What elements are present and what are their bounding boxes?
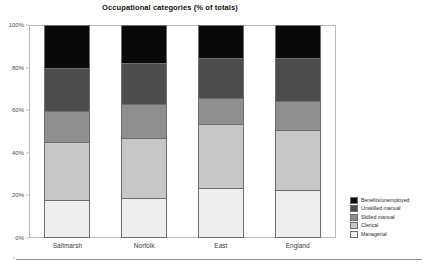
y-axis: 0%20%40%60%80%100% [0, 25, 29, 238]
bar-stack [275, 25, 321, 238]
bar-segment[interactable] [198, 188, 244, 238]
legend-item-label: Unskilled manual [361, 205, 401, 212]
bar-segment[interactable] [275, 130, 321, 190]
bar-stack [121, 25, 167, 238]
chart-legend: Benefits/unemployedUnskilled manualSkill… [350, 196, 436, 239]
bar-segment[interactable] [121, 25, 167, 63]
y-axis-tick-label: 80% [12, 65, 24, 71]
bar-group-saltmarsh[interactable] [44, 25, 90, 238]
legend-item-label: Managerial [361, 231, 387, 238]
bar-group-east[interactable] [198, 25, 244, 238]
legend-color-swatch [350, 197, 358, 204]
bar-segment[interactable] [198, 58, 244, 98]
bar-segment[interactable] [121, 104, 167, 138]
bar-segment[interactable] [198, 124, 244, 188]
bar-segment[interactable] [44, 142, 90, 200]
x-axis: SaltmarshNorfolkEastEngland [29, 240, 336, 254]
bar-segment[interactable] [44, 68, 90, 111]
footer-divider [16, 259, 422, 260]
legend-color-swatch [350, 222, 358, 229]
legend-item[interactable]: Benefits/unemployed [350, 196, 436, 204]
bar-group-norfolk[interactable] [121, 25, 167, 238]
bar-segment[interactable] [275, 190, 321, 238]
y-axis-tick-label: 40% [12, 150, 24, 156]
legend-item-label: Clerical [361, 222, 378, 229]
bar-segment[interactable] [275, 101, 321, 130]
x-axis-label-saltmarsh: Saltmarsh [32, 242, 102, 249]
legend-item-label: Benefits/unemployed [361, 197, 409, 204]
chart-container: Occupational categories (% of totals) 0%… [0, 0, 438, 268]
bar-segment[interactable] [121, 138, 167, 198]
legend-item[interactable]: Clerical [350, 222, 436, 230]
bar-segment[interactable] [275, 25, 321, 58]
bar-segment[interactable] [44, 25, 90, 68]
y-axis-tick-label: 60% [12, 107, 24, 113]
bar-segment[interactable] [275, 58, 321, 101]
bar-segment[interactable] [44, 200, 90, 238]
legend-item[interactable]: Skilled manual [350, 213, 436, 221]
bar-segment[interactable] [198, 25, 244, 58]
legend-item[interactable]: Unskilled manual [350, 205, 436, 213]
x-axis-label-east: East [186, 242, 256, 249]
legend-color-swatch [350, 205, 358, 212]
legend-item-label: Skilled manual [361, 214, 395, 221]
bars-layer [29, 25, 336, 238]
legend-color-swatch [350, 231, 358, 238]
y-axis-tick-label: 100% [9, 22, 24, 28]
bar-segment[interactable] [121, 198, 167, 238]
legend-color-swatch [350, 214, 358, 221]
bar-segment[interactable] [198, 98, 244, 124]
x-axis-label-norfolk: Norfolk [109, 242, 179, 249]
x-axis-label-england: England [263, 242, 333, 249]
bar-stack [44, 25, 90, 238]
bar-segment[interactable] [44, 111, 90, 142]
y-axis-tick-label: 0% [15, 235, 24, 241]
y-axis-tick-label: 20% [12, 192, 24, 198]
corner-mark: ‹ [13, 254, 15, 260]
bar-segment[interactable] [121, 63, 167, 104]
chart-title: Occupational categories (% of totals) [0, 3, 340, 12]
bar-stack [198, 25, 244, 238]
legend-item[interactable]: Managerial [350, 230, 436, 238]
bar-group-england[interactable] [275, 25, 321, 238]
